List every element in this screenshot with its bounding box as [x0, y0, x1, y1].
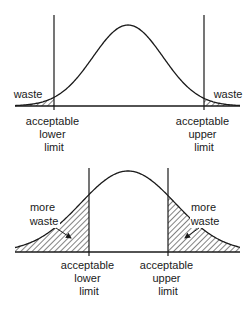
top-upper-limit-label: acceptable upper limit	[176, 115, 232, 153]
bottom-upper-limit-label: acceptable upper limit	[140, 259, 196, 297]
top-bell-curve	[15, 25, 240, 106]
top-lower-limit-label: acceptable lower limit	[26, 115, 82, 153]
bottom-lower-limit-label: acceptable lower limit	[61, 259, 117, 297]
top-left-waste-label: waste	[13, 88, 43, 100]
top-right-waste-label: waste	[213, 88, 243, 100]
top-distribution-panel: waste waste acceptable lower limit accep…	[13, 15, 243, 153]
process-spread-diagram: waste waste acceptable lower limit accep…	[0, 0, 252, 312]
bottom-distribution-panel: more waste more waste acceptable lower l…	[15, 168, 240, 297]
